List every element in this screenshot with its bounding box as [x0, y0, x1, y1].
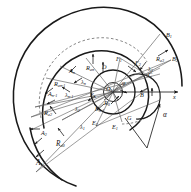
label-point-E1: E1: [112, 124, 118, 131]
label-angle-lambda-n-minus-1: λn-1: [65, 92, 73, 99]
radial-lines: [31, 34, 171, 172]
label-radius-Ra0: Ra0: [56, 141, 65, 148]
label-radius-Ran: Ran: [86, 65, 94, 72]
label-point-En: En: [90, 92, 96, 99]
label-point-D: D: [102, 64, 106, 70]
label-point-A2: A2: [41, 130, 47, 137]
label-x-axis: x: [173, 94, 176, 100]
label-angle-phi: φ: [122, 80, 125, 86]
label-point-En-minus-1: En-1: [95, 106, 104, 113]
label-radius-Ran-minus-1: Ran-1: [54, 81, 65, 88]
label-point-G: G: [127, 115, 131, 121]
label-angle-alpha: α: [163, 112, 167, 119]
label-angle-lambda-n: λn: [81, 79, 86, 86]
label-point-E2: E2: [92, 120, 98, 127]
label-point-An-minus-1: An-1: [48, 91, 57, 98]
label-point-F2: F2: [135, 60, 141, 67]
label-radius-R0: R0: [104, 100, 110, 107]
label-angle-lambda1: λ1: [80, 124, 85, 131]
spiral-construction-figure: A1 A2 An-1 An B B1 B2 C D E1 E2 En-1 En …: [0, 0, 191, 192]
label-radius-Ra3: Ra3: [156, 56, 164, 63]
label-radius-Ra2: Ra2: [44, 110, 52, 117]
label-point-B2: B2: [172, 56, 178, 63]
label-angle-lambda3: λ3: [148, 66, 153, 73]
label-angle-lambda2: λ2: [75, 106, 80, 113]
label-point-F1: F1: [116, 56, 122, 63]
label-point-O1: O1: [106, 86, 113, 93]
label-point-B1: B1: [166, 32, 172, 39]
label-point-A1: A1: [36, 160, 42, 167]
label-point-B: B: [140, 92, 144, 98]
label-point-An: An: [69, 68, 75, 75]
